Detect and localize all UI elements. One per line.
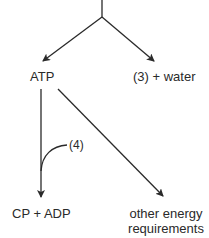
node-other-energy-line1: other energy <box>126 206 206 221</box>
arrow-to-atp <box>43 17 102 61</box>
annotation-step4: (4) <box>69 138 84 153</box>
node-product3-water: (3) + water <box>133 69 196 84</box>
arrows-layer <box>0 0 209 238</box>
arrow-to-product3-water <box>102 17 154 61</box>
node-other-energy: other energy requirements <box>126 206 206 236</box>
node-atp: ATP <box>30 69 54 84</box>
node-other-energy-line2: requirements <box>126 221 206 236</box>
diagram-canvas: ATP (3) + water (4) CP + ADP other energ… <box>0 0 209 238</box>
node-cp-adp: CP + ADP <box>12 206 71 221</box>
curved-arrow-step4 <box>41 145 67 171</box>
